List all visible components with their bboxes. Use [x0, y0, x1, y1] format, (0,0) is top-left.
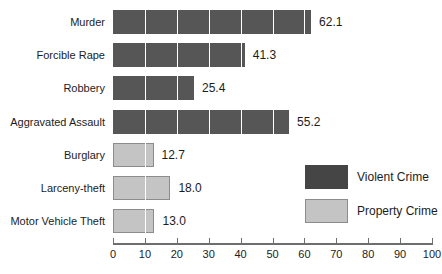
bar-container — [113, 76, 194, 100]
bar-value-label: 12.7 — [162, 143, 185, 167]
chart-row: Aggravated Assault55.2 — [0, 110, 442, 134]
bar-chart: Murder62.1Forcible Rape41.3Robbery25.4Ag… — [0, 0, 442, 274]
axis-tick — [145, 238, 146, 245]
bar-container — [113, 110, 289, 134]
axis-tick — [113, 238, 114, 245]
category-label: Robbery — [0, 76, 105, 100]
bar-container — [113, 209, 154, 233]
bar-robbery — [113, 76, 194, 100]
bar-value-label: 62.1 — [319, 10, 342, 34]
bar-container — [113, 143, 154, 167]
category-label: Forcible Rape — [0, 43, 105, 67]
legend-label-violent-crime: Violent Crime — [357, 165, 429, 189]
axis-tick — [368, 238, 369, 245]
bar-value-label: 13.0 — [162, 209, 185, 233]
axis-tick — [177, 238, 178, 245]
category-label: Burglary — [0, 143, 105, 167]
category-label: Murder — [0, 10, 105, 34]
chart-row: Forcible Rape41.3 — [0, 43, 442, 67]
bar-value-label: 25.4 — [202, 76, 225, 100]
chart-row: Robbery25.4 — [0, 76, 442, 100]
axis-tick — [336, 238, 337, 245]
bar-value-label: 41.3 — [253, 43, 276, 67]
bar-value-label: 55.2 — [297, 110, 320, 134]
bar-value-label: 18.0 — [178, 176, 201, 200]
axis-tick — [241, 238, 242, 245]
category-label: Motor Vehicle Theft — [0, 209, 105, 233]
bar-aggravated-assault — [113, 110, 289, 134]
bar-motor-vehicle-theft — [113, 209, 154, 233]
legend-swatch-violent-crime — [305, 165, 348, 189]
bar-container — [113, 43, 245, 67]
bar-murder — [113, 10, 311, 34]
chart-row: Burglary12.7 — [0, 143, 442, 167]
axis-tick-label: 100 — [412, 248, 442, 260]
bar-forcible-rape — [113, 43, 245, 67]
axis-tick — [432, 238, 433, 245]
axis-tick — [304, 238, 305, 245]
x-axis-ticks — [113, 236, 432, 245]
axis-tick — [209, 238, 210, 245]
bar-container — [113, 10, 311, 34]
legend-label-property-crime: Property Crime — [357, 199, 438, 223]
bar-container — [113, 176, 170, 200]
category-label: Aggravated Assault — [0, 110, 105, 134]
axis-tick — [273, 238, 274, 245]
bar-larceny-theft — [113, 176, 170, 200]
legend-swatch-property-crime — [305, 199, 348, 223]
bar-burglary — [113, 143, 154, 167]
category-label: Larceny-theft — [0, 176, 105, 200]
chart-row: Murder62.1 — [0, 10, 442, 34]
axis-tick — [400, 238, 401, 245]
